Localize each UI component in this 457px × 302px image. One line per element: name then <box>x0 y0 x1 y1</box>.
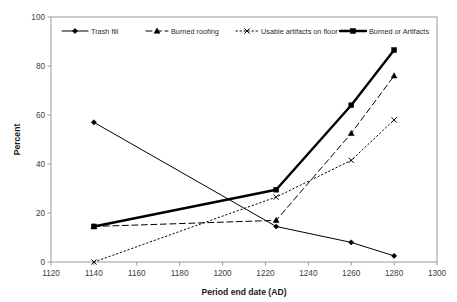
x-axis-tick-label: 1120 <box>42 269 60 278</box>
x-axis-tick-label: 1240 <box>299 269 318 278</box>
series-line <box>94 76 394 227</box>
legend-item-burned-roofing[interactable]: Burned roofing <box>146 27 219 36</box>
y-axis-tick-label: 20 <box>36 209 46 218</box>
series-trash-fill <box>91 120 396 259</box>
data-point-diamond <box>72 28 77 33</box>
series-line <box>94 122 394 256</box>
y-axis-tick-label: 80 <box>36 62 46 71</box>
x-axis-title: Period end date (AD) <box>202 287 287 297</box>
data-point-diamond <box>274 224 279 229</box>
legend-item-usable-artifacts-on-floor[interactable]: Usable artifacts on floor <box>236 27 338 36</box>
series-burned-or-artifacts <box>91 48 396 229</box>
data-point-square <box>351 29 356 34</box>
data-point-diamond <box>91 120 96 125</box>
legend-label: Usable artifacts on floor <box>261 27 338 36</box>
x-axis-tick-label: 1200 <box>213 269 232 278</box>
data-point-diamond <box>392 253 397 258</box>
y-axis-tick-label: 100 <box>31 13 45 22</box>
x-axis-tick-label: 1260 <box>342 269 361 278</box>
x-axis-tick-label: 1140 <box>85 269 103 278</box>
data-point-square <box>392 48 397 53</box>
series-line <box>94 120 394 262</box>
data-point-diamond <box>349 240 354 245</box>
x-axis-tick-label: 1280 <box>385 269 404 278</box>
y-axis-tick-label: 40 <box>36 160 46 169</box>
series-burned-roofing <box>91 73 397 229</box>
x-axis-tick-label: 1220 <box>256 269 275 278</box>
legend-label: Burned roofing <box>171 27 219 36</box>
legend-item-burned-or-artifacts[interactable]: Burned or Artifacts <box>340 27 429 36</box>
plot-area-border <box>51 17 437 262</box>
data-point-cross <box>392 117 397 122</box>
x-axis-tick-label: 1300 <box>428 269 447 278</box>
line-chart: 0204060801001120114011601180120012201240… <box>0 0 457 302</box>
y-axis-tick-label: 60 <box>36 111 46 120</box>
y-axis-title: Percent <box>12 124 22 156</box>
data-point-cross <box>349 158 354 163</box>
data-point-square <box>91 224 96 229</box>
data-point-cross <box>274 194 279 199</box>
x-axis-tick-label: 1180 <box>171 269 189 278</box>
data-point-square <box>274 187 279 192</box>
legend-item-trash-fill[interactable]: Trash fill <box>62 27 119 36</box>
legend-label: Burned or Artifacts <box>369 27 429 36</box>
data-point-triangle <box>391 73 397 78</box>
data-point-square <box>349 103 354 108</box>
legend-label: Trash fill <box>91 27 119 36</box>
chart-container: 0204060801001120114011601180120012201240… <box>0 0 457 302</box>
x-axis-tick-label: 1160 <box>128 269 146 278</box>
y-axis-tick-label: 0 <box>40 258 45 267</box>
series-line <box>94 50 394 226</box>
chart-legend: Trash fillBurned roofingUsable artifacts… <box>62 27 429 36</box>
